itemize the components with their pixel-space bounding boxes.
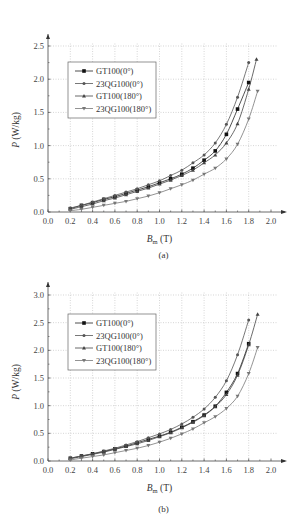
x-tick-label: 0.2: [65, 465, 76, 475]
x-tick-label: 0.4: [87, 216, 98, 226]
y-tick-label: 2.0: [33, 345, 44, 355]
x-tick-label: 1.8: [243, 216, 254, 226]
legend-label: 23QG100(0°): [96, 331, 143, 341]
y-tick-label: 3.0: [33, 290, 44, 300]
x-tick-label: 1.0: [154, 216, 165, 226]
x-tick-label: 0.0: [43, 216, 54, 226]
x-axis-title: Bm (T): [147, 483, 172, 494]
y-axis-arrow-icon: [46, 282, 50, 287]
y-tick-label: 0.0: [33, 207, 44, 217]
y-axis-arrow-icon: [46, 34, 50, 39]
y-tick-label: 0.5: [33, 428, 44, 438]
x-tick-label: 1.8: [243, 465, 254, 475]
y-tick-label: 2.0: [33, 74, 44, 84]
chart-b: 0.00.20.40.60.81.01.21.41.61.82.00.00.51…: [0, 262, 298, 525]
x-tick-label: 1.2: [176, 465, 187, 475]
chart-a: 0.00.20.40.60.81.01.21.41.61.82.00.00.51…: [0, 0, 298, 262]
legend-label: GT100(0°): [96, 66, 134, 76]
y-axis-title: P (W/kg): [11, 112, 22, 149]
legend: GT100(0°)23QG100(0°)GT100(180°)23QG100(1…: [68, 314, 156, 370]
legend-label: GT100(180°): [96, 343, 142, 353]
y-tick-label: 2.5: [33, 318, 44, 328]
y-tick-label: 1.0: [33, 401, 44, 411]
x-tick-label: 1.6: [221, 465, 232, 475]
legend-label: GT100(0°): [96, 318, 134, 328]
x-tick-label: 0.4: [87, 465, 98, 475]
x-axis-arrow-icon: [281, 210, 287, 214]
x-axis-title: Bm (T): [147, 234, 172, 245]
x-tick-label: 0.2: [65, 216, 76, 226]
x-tick-label: 1.2: [176, 216, 187, 226]
x-axis-arrow-icon: [281, 459, 287, 463]
y-tick-label: 2.5: [33, 41, 44, 51]
legend-label: 23QG100(180°): [96, 104, 152, 114]
y-tick-label: 1.0: [33, 141, 44, 151]
x-tick-label: 0.8: [132, 465, 143, 475]
figure-caption: (b): [158, 504, 169, 514]
x-tick-label: 1.0: [154, 465, 165, 475]
legend-label: 23QG100(180°): [96, 356, 152, 366]
figure-caption: (a): [159, 250, 169, 260]
y-tick-label: 1.5: [33, 373, 44, 383]
x-tick-label: 0.6: [110, 216, 121, 226]
y-tick-label: 0.5: [33, 174, 44, 184]
legend-label: GT100(180°): [96, 91, 142, 101]
x-tick-label: 0.6: [110, 465, 121, 475]
y-tick-label: 0.0: [33, 456, 44, 466]
x-tick-label: 1.6: [221, 216, 232, 226]
x-tick-label: 2.0: [266, 465, 277, 475]
x-tick-label: 1.4: [199, 465, 210, 475]
x-tick-label: 0.8: [132, 216, 143, 226]
x-tick-label: 0.0: [43, 465, 54, 475]
legend-label: 23QG100(0°): [96, 79, 143, 89]
y-axis-title: P (W/kg): [11, 364, 22, 401]
x-tick-label: 2.0: [266, 216, 277, 226]
y-tick-label: 1.5: [33, 107, 44, 117]
legend: GT100(0°)23QG100(0°)GT100(180°)23QG100(1…: [68, 62, 156, 118]
x-tick-label: 1.4: [199, 216, 210, 226]
